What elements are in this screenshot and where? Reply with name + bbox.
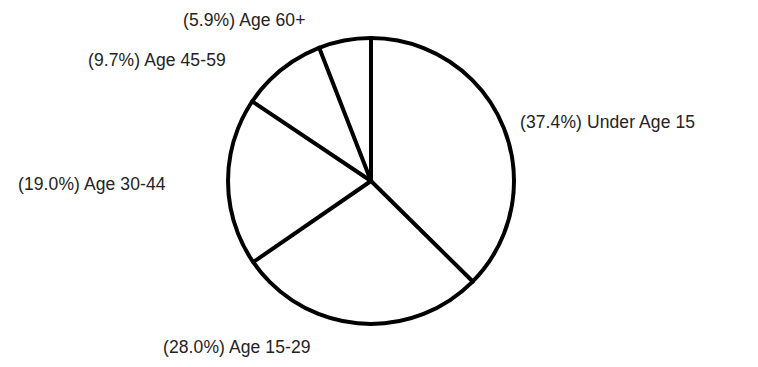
pie-slice-label-age-15-29: (28.0%) Age 15-29 [163,337,311,357]
pie-slice-label-age-30-44: (19.0%) Age 30-44 [18,174,166,194]
pie-slice-label-age-45-59: (9.7%) Age 45-59 [88,50,226,70]
pie-slice-label-under-age-15: (37.4%) Under Age 15 [520,112,695,132]
pie-slice-label-age-60-plus: (5.9%) Age 60+ [183,10,306,30]
pie-chart-figure: (5.9%) Age 60+ (9.7%) Age 45-59 (37.4%) … [0,0,758,367]
